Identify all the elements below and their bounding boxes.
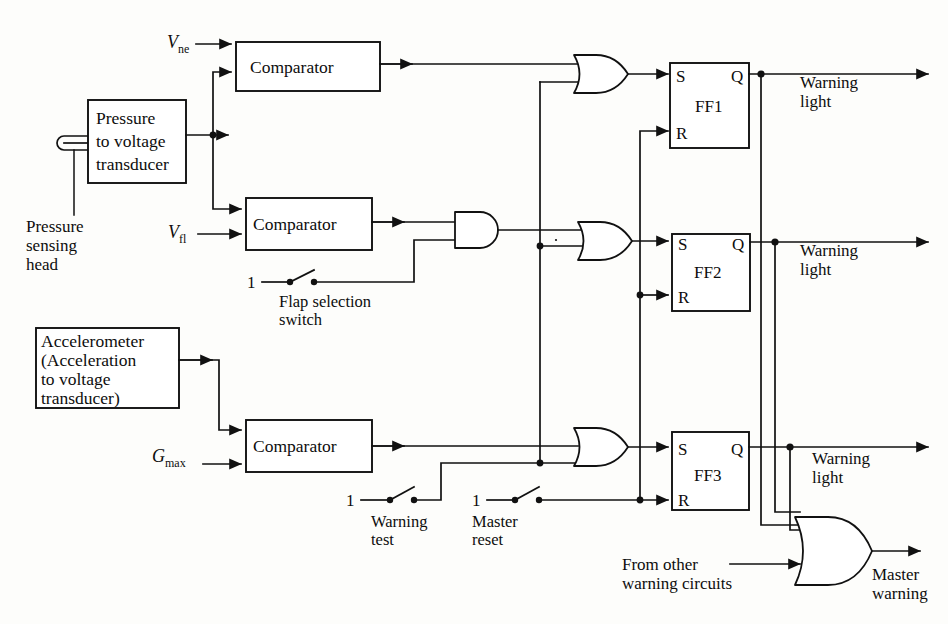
wire-ff1-q-to-master-or xyxy=(761,74,800,525)
flap-switch-source-value: 1 xyxy=(247,273,256,292)
warning-light-2-label-line2: light xyxy=(800,260,831,279)
accelerometer-label-line4: transducer) xyxy=(41,388,120,408)
pressure-transducer-label-line2: to voltage xyxy=(96,131,166,151)
ff1-q-pin-label: Q xyxy=(731,67,743,86)
ff3-set-pin-label: S xyxy=(678,440,687,459)
gmax-label: Gmax xyxy=(152,446,186,470)
wire-transducer-to-comp2 xyxy=(213,135,241,209)
master-reset-source-value: 1 xyxy=(472,491,481,510)
flap-switch-blade[interactable] xyxy=(290,270,314,282)
ff3-name-label: FF3 xyxy=(694,466,721,485)
ff2-set-pin-label: S xyxy=(678,235,687,254)
or-gate-1 xyxy=(574,55,628,93)
comparator-2-label: Comparator xyxy=(253,214,337,234)
master-or-gate xyxy=(795,517,872,585)
pressure-sensing-head-icon xyxy=(57,136,88,150)
warning-test-label-line1: Warning xyxy=(371,512,427,531)
ff3-reset-pin-label: R xyxy=(678,491,690,510)
ff3-q-pin-label: Q xyxy=(731,440,743,459)
master-reset-label-line2: reset xyxy=(472,530,504,549)
vne-label: Vne xyxy=(167,32,189,56)
scan-speck xyxy=(555,239,557,241)
master-reset-vertical-bus xyxy=(640,131,668,500)
warning-light-3-label-line2: light xyxy=(812,468,843,487)
or-gate-2 xyxy=(578,222,632,260)
vfl-label: Vfl xyxy=(168,222,187,246)
and-gate xyxy=(455,212,498,248)
master-reset-blade[interactable] xyxy=(515,487,539,500)
master-warning-label-line1: Master xyxy=(872,565,920,584)
wire-transducer-to-comp1 xyxy=(213,72,231,135)
pressure-transducer-label-line3: transducer xyxy=(96,154,169,174)
master-warning-label-line2: warning xyxy=(872,584,928,603)
ff1-set-pin-label: S xyxy=(676,67,685,86)
warning-light-3-label-line1: Warning xyxy=(812,449,871,468)
warning-test-blade[interactable] xyxy=(390,487,414,500)
flap-switch-label-line1: Flap selection xyxy=(279,292,371,311)
ff1-name-label: FF1 xyxy=(695,97,722,116)
pressure-head-label-line1: Pressure xyxy=(26,217,84,236)
external-input-label-line2: warning circuits xyxy=(622,574,732,593)
ff2-reset-pin-label: R xyxy=(678,288,690,307)
wire-accel-to-comp3 xyxy=(179,360,241,430)
accelerometer-label-line1: Accelerometer xyxy=(41,331,144,351)
ff1-reset-pin-label: R xyxy=(676,124,688,143)
diagram-canvas: Pressure sensing head Pressure to voltag… xyxy=(0,0,948,624)
pressure-head-label-line2: sensing xyxy=(26,236,78,255)
warning-light-2-label-line1: Warning xyxy=(800,241,859,260)
warning-light-1-label-line2: light xyxy=(800,92,831,111)
wire-ff2-q-to-master-or xyxy=(775,242,800,512)
pressure-head-label-line3: head xyxy=(26,255,59,274)
comparator-1-label: Comparator xyxy=(250,57,334,77)
flap-switch-label-line2: switch xyxy=(279,310,323,329)
comparator-3-label: Comparator xyxy=(253,436,337,456)
accelerometer-label-line2: (Acceleration xyxy=(41,350,136,370)
accelerometer-label-line3: to voltage xyxy=(41,369,111,389)
or-gate-3 xyxy=(574,428,628,466)
pressure-transducer-label-line1: Pressure xyxy=(96,108,156,128)
master-reset-label-line1: Master xyxy=(472,512,518,531)
ff2-name-label: FF2 xyxy=(694,263,721,282)
block-diagram-svg: Pressure sensing head Pressure to voltag… xyxy=(0,0,948,624)
warning-light-1-label-line1: Warning xyxy=(800,73,859,92)
external-input-label-line1: From other xyxy=(622,555,698,574)
ff2-q-pin-label: Q xyxy=(732,235,744,254)
warning-test-label-line2: test xyxy=(371,530,394,549)
warning-test-source-value: 1 xyxy=(346,491,355,510)
